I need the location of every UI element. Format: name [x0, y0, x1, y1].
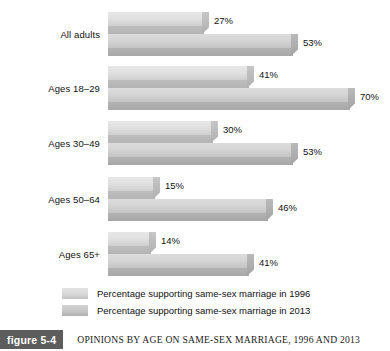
bar-1996	[108, 66, 254, 88]
bar-end-cap	[247, 254, 254, 276]
bar-front-face	[108, 191, 155, 199]
bar-front-face	[108, 246, 151, 254]
bar-end-cap	[153, 177, 160, 199]
bar-end-cap	[348, 88, 355, 110]
bar-value-label: 53%	[303, 147, 322, 157]
category-label: Ages 18–29	[0, 83, 100, 94]
bar-2013	[108, 254, 254, 276]
bar-top-face	[108, 88, 355, 102]
figure-number-badge: figure 5-4	[0, 330, 63, 349]
category-label: Ages 50–64	[0, 194, 100, 205]
legend-item-2013: Percentage supporting same-sex marriage …	[62, 303, 310, 317]
figure-caption-bar: figure 5-4 OPINIONS BY AGE ON SAME-SEX M…	[0, 330, 390, 349]
bar-group: Ages 18–29 41% 70%	[0, 66, 390, 116]
bar-group: All adults 27% 53%	[0, 12, 390, 62]
bar-2013	[108, 143, 298, 165]
bar-value-label: 53%	[303, 38, 322, 48]
bar-top-face	[108, 232, 156, 246]
bar-top-face	[108, 143, 298, 157]
bar-value-label: 41%	[259, 70, 278, 80]
bar-2013	[108, 88, 355, 110]
chart-legend: Percentage supporting same-sex marriage …	[0, 286, 390, 322]
bar-value-label: 14%	[161, 236, 180, 246]
bar-end-cap	[211, 121, 218, 143]
bar-value-label: 70%	[360, 92, 379, 102]
bar-top-face	[108, 177, 160, 191]
bar-top-face	[108, 199, 273, 213]
bar-2013	[108, 199, 273, 221]
bar-group: Ages 50–64 15% 46%	[0, 177, 390, 227]
legend-item-1996: Percentage supporting same-sex marriage …	[62, 286, 310, 300]
bar-value-label: 27%	[214, 16, 233, 26]
bar-front-face	[108, 80, 249, 88]
legend-swatch-1996	[62, 288, 88, 299]
bar-front-face	[108, 26, 204, 34]
bar-value-label: 41%	[259, 258, 278, 268]
bar-front-face	[108, 213, 268, 221]
figure-caption-text: OPINIONS BY AGE ON SAME-SEX MARRIAGE, 19…	[77, 330, 360, 349]
bar-end-cap	[291, 143, 298, 165]
bar-end-cap	[266, 199, 273, 221]
bar-front-face	[108, 157, 293, 165]
bar-1996	[108, 232, 156, 254]
bar-top-face	[108, 12, 209, 26]
bar-top-face	[108, 121, 218, 135]
bar-1996	[108, 177, 160, 199]
bar-end-cap	[149, 232, 156, 254]
bar-1996	[108, 12, 209, 34]
legend-swatch-2013	[62, 305, 88, 316]
bar-end-cap	[202, 12, 209, 34]
bar-group: Ages 30–49 30% 53%	[0, 121, 390, 171]
bar-2013	[108, 34, 298, 56]
category-label: All adults	[0, 29, 100, 40]
bar-group: Ages 65+ 14% 41%	[0, 232, 390, 282]
bar-top-face	[108, 254, 254, 268]
bar-top-face	[108, 34, 298, 48]
bar-chart-plot-area: All adults 27% 53% Ages 18–29 41%	[0, 0, 390, 282]
bar-value-label: 46%	[278, 203, 297, 213]
bar-front-face	[108, 268, 249, 276]
bar-end-cap	[291, 34, 298, 56]
bar-value-label: 30%	[223, 125, 242, 135]
bar-front-face	[108, 135, 213, 143]
figure-container: All adults 27% 53% Ages 18–29 41%	[0, 0, 390, 351]
category-label: Ages 30–49	[0, 138, 100, 149]
bar-end-cap	[247, 66, 254, 88]
bar-1996	[108, 121, 218, 143]
bar-value-label: 15%	[165, 181, 184, 191]
legend-label-1996: Percentage supporting same-sex marriage …	[97, 288, 310, 299]
bar-front-face	[108, 48, 293, 56]
bar-front-face	[108, 102, 350, 110]
category-label: Ages 65+	[0, 249, 100, 260]
bar-top-face	[108, 66, 254, 80]
legend-label-2013: Percentage supporting same-sex marriage …	[97, 305, 310, 316]
